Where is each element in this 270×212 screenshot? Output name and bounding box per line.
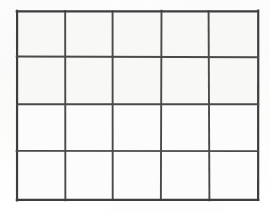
grid-cell[interactable] [115,59,160,103]
grid-cell[interactable] [115,106,160,150]
grid-cell[interactable] [67,153,112,199]
grid-cell[interactable] [19,106,64,150]
grid-cell[interactable] [211,153,257,199]
grid-cell[interactable] [19,13,64,56]
grid-cell[interactable] [67,106,112,150]
grid-cell[interactable] [67,13,112,56]
grid-cell[interactable] [211,59,257,103]
figure-canvas [0,0,270,212]
grid-cell[interactable] [163,59,208,103]
grid-cell[interactable] [115,13,160,56]
grid-cell[interactable] [67,59,112,103]
grid-cell[interactable] [163,106,208,150]
grid-cells [19,13,257,199]
grid-cell[interactable] [211,13,257,56]
grid-cell[interactable] [163,13,208,56]
grid-cell[interactable] [211,106,257,150]
grid-rule-horizontal [17,57,258,58]
grid-cell[interactable] [19,59,64,103]
grid-cell[interactable] [19,153,64,199]
grid-rule-vertical [209,11,210,200]
grid-cell[interactable] [163,153,208,199]
grid-cell[interactable] [115,153,160,199]
grid-table[interactable] [0,0,270,212]
